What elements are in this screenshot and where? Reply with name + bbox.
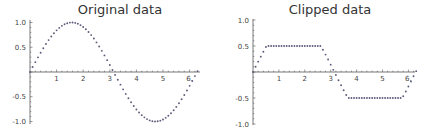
data-point xyxy=(186,90,188,92)
data-point xyxy=(415,70,417,72)
data-point xyxy=(159,120,161,122)
data-point xyxy=(143,116,145,118)
clipped-data-chart: Clipped data 123456.1.00.5-0.5-1.0 xyxy=(210,0,421,140)
x-tick-label: 1 xyxy=(54,75,58,83)
original-data-chart: Original data 123456.1.00.5-0.5-1.0 xyxy=(0,0,210,140)
data-point xyxy=(348,97,350,99)
data-point xyxy=(173,109,175,111)
data-point xyxy=(402,95,404,97)
data-point xyxy=(135,109,137,111)
data-point xyxy=(133,105,135,107)
data-point xyxy=(319,45,321,47)
data-point xyxy=(80,24,82,26)
data-point xyxy=(371,97,373,99)
data-point xyxy=(265,46,267,48)
data-point xyxy=(45,43,47,45)
data-point xyxy=(125,93,127,95)
y-tick-label: -0.5 xyxy=(235,95,249,103)
data-point xyxy=(363,97,365,99)
data-point xyxy=(178,102,180,104)
data-point xyxy=(281,45,283,47)
data-point xyxy=(288,45,290,47)
data-point xyxy=(252,71,254,73)
data-point xyxy=(154,121,156,123)
data-point xyxy=(327,59,329,61)
data-point xyxy=(356,97,358,99)
data-point xyxy=(88,31,90,33)
data-point xyxy=(101,50,103,52)
data-point xyxy=(122,88,124,90)
data-point xyxy=(413,75,415,77)
data-point xyxy=(90,34,92,36)
data-point xyxy=(138,112,140,114)
data-point xyxy=(325,54,327,56)
data-point xyxy=(82,26,84,28)
data-point xyxy=(262,51,264,53)
data-point xyxy=(93,38,95,40)
data-point xyxy=(322,49,324,51)
plot-area: 123456.1.00.5-0.5-1.0 xyxy=(0,0,210,140)
data-point xyxy=(112,69,114,71)
data-point xyxy=(340,84,342,86)
data-point xyxy=(330,64,332,66)
data-point xyxy=(338,79,340,81)
data-point xyxy=(343,89,345,91)
data-point xyxy=(162,119,164,121)
data-point xyxy=(314,45,316,47)
data-point xyxy=(149,119,151,121)
data-point xyxy=(72,22,74,24)
data-point xyxy=(50,36,52,38)
data-point xyxy=(29,71,31,73)
data-point xyxy=(395,97,397,99)
data-point xyxy=(407,86,409,88)
data-point xyxy=(69,22,71,24)
data-point xyxy=(85,28,87,30)
x-tick-label: 2 xyxy=(81,75,85,83)
data-point xyxy=(260,56,262,58)
data-point xyxy=(61,25,63,27)
data-point xyxy=(151,120,153,122)
data-point xyxy=(291,45,293,47)
data-point xyxy=(317,45,319,47)
data-point xyxy=(392,97,394,99)
data-point xyxy=(56,29,58,31)
y-tick-label: 1.0 xyxy=(238,17,249,25)
y-tick-label: 0.5 xyxy=(15,44,26,52)
data-point xyxy=(183,94,185,96)
data-point xyxy=(397,97,399,99)
x-tick-label: 3 xyxy=(328,75,332,83)
plot-area: 123456.1.00.5-0.5-1.0 xyxy=(210,0,421,140)
x-tick-label: 2 xyxy=(303,75,307,83)
data-point xyxy=(37,56,39,58)
data-point xyxy=(268,45,270,47)
data-point xyxy=(104,54,106,56)
data-point xyxy=(332,69,334,71)
data-point xyxy=(146,118,148,120)
data-point xyxy=(66,22,68,24)
x-tick-label: 5 xyxy=(380,75,384,83)
data-point xyxy=(114,74,116,76)
data-point xyxy=(64,23,66,25)
x-tick-label: 4 xyxy=(134,75,139,83)
data-point xyxy=(273,45,275,47)
data-point xyxy=(257,61,259,63)
data-point xyxy=(350,97,352,99)
data-point xyxy=(109,64,111,66)
y-tick-label: -1.0 xyxy=(12,118,26,126)
x-tick-label: 5 xyxy=(161,75,165,83)
data-point xyxy=(275,45,277,47)
data-point xyxy=(345,94,347,96)
data-point xyxy=(309,45,311,47)
data-point xyxy=(293,45,295,47)
data-point xyxy=(304,45,306,47)
data-point xyxy=(389,97,391,99)
data-point xyxy=(181,98,183,100)
data-point xyxy=(374,97,376,99)
data-point xyxy=(32,66,34,68)
data-point xyxy=(283,45,285,47)
data-point xyxy=(48,39,50,41)
data-point xyxy=(358,97,360,99)
data-point xyxy=(335,74,337,76)
data-point xyxy=(366,97,368,99)
data-point xyxy=(306,45,308,47)
